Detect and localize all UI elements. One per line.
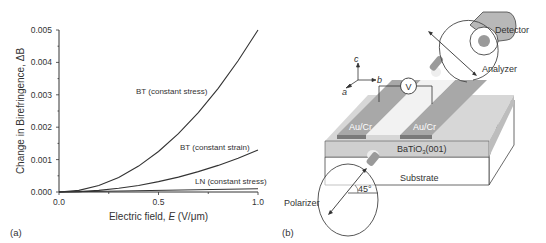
electrode-1-label: Au/Cr (349, 122, 372, 132)
y-tick-label: 0.001 (31, 155, 53, 165)
electrode-1-edge (337, 135, 366, 139)
x-tick-label: 0.5 (153, 197, 165, 207)
panel-label-a: (a) (10, 227, 22, 238)
axis-b-label: b (377, 75, 382, 85)
electrode-2-edge (400, 135, 432, 139)
light-beam-out (429, 55, 445, 77)
series-label-bt-strain: BT (constant strain) (180, 143, 250, 152)
x-tick-label: 0.0 (53, 197, 65, 207)
y-tick-label: 0.004 (31, 57, 53, 67)
series-label-bt-stress: BT (constant stress) (136, 87, 208, 96)
crystal-axes-icon (346, 63, 376, 88)
y-tick-label: 0.005 (31, 25, 53, 35)
x-axis-title: Electric field, E (V/μm) (109, 211, 208, 222)
x-tick-label: 1.0 (252, 197, 264, 207)
film-label: BaTiO3(001) (397, 144, 447, 155)
y-tick-label: 0.000 (31, 187, 53, 197)
y-axis-title: Change in Birefringence, ΔB (15, 48, 26, 175)
series-label-ln-stress: LN (constant stress) (195, 177, 267, 186)
measurement-setup-diagram: Au/Cr Au/Cr V c b a Detector Analy (270, 0, 546, 243)
detector-label: Detector (495, 25, 529, 35)
analyzer-label: Analyzer (482, 64, 517, 74)
substrate-label: Substrate (400, 173, 439, 183)
y-tick-label: 0.002 (31, 122, 53, 132)
series-bt-constant-stress (59, 30, 258, 192)
axis-a-label: a (342, 87, 347, 97)
panel-label-b: (b) (282, 227, 294, 238)
polarizer-label: Polarizer (284, 198, 320, 208)
birefringence-chart: 0.000 0.001 0.002 0.003 0.004 0.005 0.0 … (0, 0, 270, 243)
y-tick-label: 0.003 (31, 90, 53, 100)
electrode-2-label: Au/Cr (413, 122, 436, 132)
axis-c-label: c (354, 54, 359, 64)
voltmeter-label: V (405, 82, 411, 92)
angle-label: 45° (358, 184, 372, 194)
polarizer-icon (318, 164, 378, 236)
